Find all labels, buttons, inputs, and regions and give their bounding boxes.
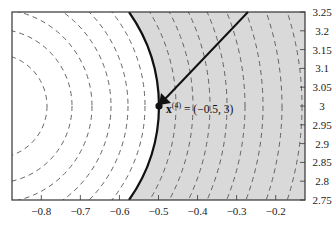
contour-line xyxy=(0,54,47,158)
x-tick-label: −0.7 xyxy=(70,205,90,217)
x-tick-label: −0.6 xyxy=(109,205,129,217)
x-tick-label: −0.8 xyxy=(31,205,51,217)
x-tick-label: −0.5 xyxy=(149,205,169,217)
y-tick-label: 3.15 xyxy=(312,44,332,56)
x-tick-label: −0.2 xyxy=(266,205,286,217)
contour-line xyxy=(0,29,72,183)
x-tick-label: −0.4 xyxy=(188,205,208,217)
y-tick-label: 3.05 xyxy=(312,81,332,93)
contour-chart: x(4) = (−0.5, 3) −0.8−0.7−0.6−0.5−0.4−0.… xyxy=(0,0,336,225)
y-tick-label: 3 xyxy=(319,100,325,112)
y-tick-label: 2.95 xyxy=(312,119,332,131)
plot-area xyxy=(0,0,305,225)
contour-line xyxy=(0,9,92,203)
point-x4 xyxy=(155,102,162,109)
y-tick-label: 2.75 xyxy=(312,194,332,206)
y-tick-label: 2.8 xyxy=(315,175,329,187)
y-tick-label: 3.25 xyxy=(312,6,332,18)
y-tick-label: 3.2 xyxy=(315,25,329,37)
y-tick-label: 3.1 xyxy=(315,62,329,74)
y-tick-label: 2.9 xyxy=(315,138,329,150)
x-tick-label: −0.3 xyxy=(227,205,247,217)
contour-line xyxy=(0,0,128,225)
contour-line xyxy=(0,0,111,222)
y-tick-label: 2.85 xyxy=(312,156,332,168)
